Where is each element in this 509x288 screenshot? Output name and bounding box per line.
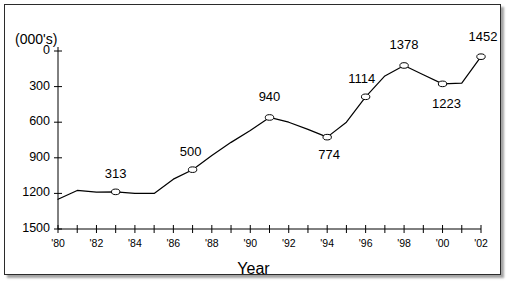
x-axis-tick-label: '00	[423, 237, 463, 249]
x-axis-tick-label: '80	[38, 237, 78, 249]
chart-axes	[58, 47, 481, 229]
chart-tick-marks	[54, 51, 481, 233]
y-axis-tick-label: 0	[6, 43, 50, 57]
y-axis-tick-label: 600	[6, 114, 50, 128]
y-axis-tick-label: 300	[6, 79, 50, 93]
data-point-value-label: 1378	[378, 37, 430, 52]
x-axis-tick-label: '96	[346, 237, 386, 249]
data-point-markers	[111, 54, 485, 195]
x-axis-tick-label: '82	[76, 237, 116, 249]
data-point-value-label: 1114	[336, 71, 388, 86]
data-point-value-label: 774	[303, 147, 355, 162]
data-point-value-label: 940	[244, 89, 296, 104]
y-axis-tick-label: 1500	[6, 221, 50, 235]
chart-figure: (000's) 150012009006003000 '80'82'84'86'…	[4, 4, 501, 275]
y-axis-tick-label: 1200	[6, 185, 50, 199]
x-axis-tick-label: '92	[269, 237, 309, 249]
x-axis-tick-label: '98	[384, 237, 424, 249]
x-axis-title: Year	[5, 260, 502, 278]
x-axis-tick-label: '88	[192, 237, 232, 249]
x-axis-tick-label: '86	[153, 237, 193, 249]
x-axis-tick-label: '94	[307, 237, 347, 249]
data-point-value-label: 1452	[457, 29, 509, 44]
data-point-value-label: 313	[90, 166, 142, 181]
x-axis-tick-label: '90	[230, 237, 270, 249]
y-axis-tick-label: 900	[6, 150, 50, 164]
data-point-value-label: 1223	[421, 96, 473, 111]
data-point-value-label: 500	[165, 144, 217, 159]
x-axis-tick-label: '02	[461, 237, 501, 249]
x-axis-tick-label: '84	[115, 237, 155, 249]
